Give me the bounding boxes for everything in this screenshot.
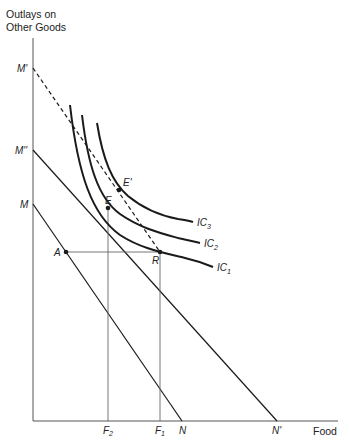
label-E: E — [105, 195, 112, 206]
dashed-line-M1R — [33, 68, 160, 252]
label-IC3: IC3 — [197, 217, 211, 230]
label-N: N — [179, 425, 187, 436]
label-N-prime: N' — [272, 425, 282, 436]
label-M: M — [20, 199, 29, 210]
label-R: R — [152, 255, 159, 266]
point-A — [64, 250, 69, 255]
label-M-double-prime: M'' — [15, 145, 28, 156]
label-E-prime: E' — [123, 177, 133, 188]
indifference-curve-diagram: M' M'' M A E E' R IC3 IC2 IC1 F2 F1 N N' — [0, 0, 349, 443]
label-A: A — [53, 247, 61, 258]
budget-line-M2N2 — [33, 150, 277, 421]
indifference-curve-IC1 — [70, 105, 213, 267]
point-E-prime — [117, 188, 122, 193]
label-F1: F1 — [155, 425, 165, 437]
point-E — [106, 206, 111, 211]
label-IC1: IC1 — [217, 262, 231, 275]
label-M-prime: M' — [17, 63, 28, 74]
label-F2: F2 — [103, 425, 113, 437]
label-IC2: IC2 — [204, 238, 218, 251]
point-R — [158, 250, 163, 255]
